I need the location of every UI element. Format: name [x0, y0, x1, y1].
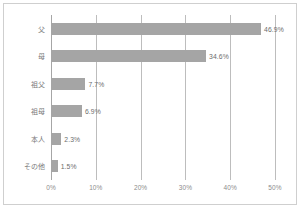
- bar-row: 祖母6.9%: [51, 98, 275, 126]
- category-label: 母: [38, 51, 45, 61]
- value-label: 7.7%: [85, 80, 104, 87]
- value-label: 34.6%: [206, 53, 229, 60]
- bar-row: 本人2.3%: [51, 125, 275, 153]
- x-tick-label: 50%: [268, 184, 281, 191]
- category-label: その他: [24, 161, 45, 171]
- bar: [51, 160, 58, 172]
- bar-row: その他1.5%: [51, 153, 275, 181]
- bar-row: 父46.9%: [51, 15, 275, 43]
- gridline-50pct: [275, 15, 276, 180]
- bar-row: 祖父7.7%: [51, 70, 275, 98]
- x-tick-label: 20%: [134, 184, 147, 191]
- value-label: 46.9%: [261, 25, 284, 32]
- category-label: 父: [38, 24, 45, 34]
- category-label: 祖父: [31, 79, 45, 89]
- value-label: 1.5%: [58, 163, 77, 170]
- bar-row: 母34.6%: [51, 43, 275, 71]
- chart-figure: 0%10%20%30%40%50% 父46.9%母34.6%祖父7.7%祖母6.…: [3, 3, 297, 205]
- bar: [51, 78, 85, 90]
- bar: [51, 50, 206, 62]
- value-label: 6.9%: [82, 108, 101, 115]
- bar: [51, 23, 261, 35]
- value-label: 2.3%: [61, 135, 80, 142]
- bar: [51, 105, 82, 117]
- x-tick-label: 10%: [89, 184, 102, 191]
- bar: [51, 133, 61, 145]
- category-label: 本人: [31, 134, 45, 144]
- x-tick-label: 40%: [224, 184, 237, 191]
- x-tick-label: 30%: [179, 184, 192, 191]
- x-tick-label: 0%: [46, 184, 56, 191]
- category-label: 祖母: [31, 106, 45, 116]
- plot-area: 0%10%20%30%40%50% 父46.9%母34.6%祖父7.7%祖母6.…: [51, 15, 275, 180]
